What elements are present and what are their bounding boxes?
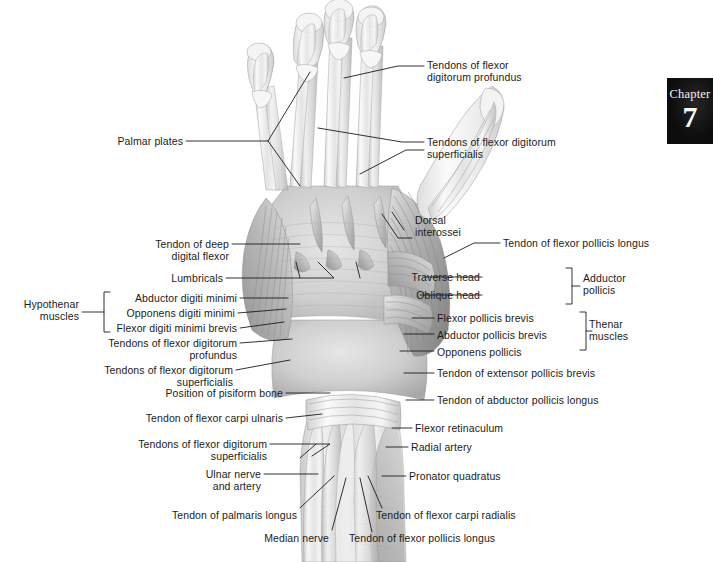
label-flexor-retinaculum: Flexor retinaculum: [415, 422, 503, 434]
label-abductor-pollicis-brevis: Abductor pollicis brevis: [437, 329, 547, 341]
label-thenar-muscles: Thenar muscles: [589, 318, 628, 343]
chapter-badge-sheen: [667, 78, 713, 144]
label-traverse-head: Traverse head: [396, 271, 480, 283]
label-adductor-pollicis: Adductor pollicis: [583, 272, 626, 297]
label-dorsal-interossei: Dorsal interossei: [415, 214, 461, 239]
label-hypothenar-muscles: Hypothenar muscles: [0, 298, 79, 323]
label-tendons-flexor-digitorum-superficialis-top: Tendons of flexor digitorum superficiali…: [427, 136, 556, 161]
label-tendon-of-flexor-pollicis-longus-upper: Tendon of flexor pollicis longus: [503, 237, 649, 249]
label-tendon-of-flexor-carpi-ulnaris: Tendon of flexor carpi ulnaris: [0, 412, 283, 424]
label-radial-artery: Radial artery: [411, 441, 472, 453]
label-position-of-pisiform-bone: Position of pisiform bone: [0, 387, 283, 399]
label-tendon-of-extensor-pollicis-brevis: Tendon of extensor pollicis brevis: [437, 367, 595, 379]
label-tendon-of-palmaris-longus: Tendon of palmaris longus: [80, 509, 297, 521]
label-tendon-of-flexor-carpi-radialis: Tendon of flexor carpi radialis: [376, 509, 516, 521]
label-tendon-of-abductor-pollicis-longus: Tendon of abductor pollicis longus: [437, 394, 599, 406]
label-opponens-digiti-minimi: Opponens digiti minimi: [108, 307, 235, 319]
label-tendon-of-flexor-pollicis-longus-bottom: Tendon of flexor pollicis longus: [349, 532, 495, 544]
chapter-badge: Chapter 7: [667, 78, 713, 144]
label-oblique-head: Oblique head: [396, 289, 480, 301]
label-tendons-flexor-digitorum-superficialis-wrist: Tendons of flexor digitorum superficiali…: [0, 438, 267, 463]
label-ulnar-nerve-and-artery: Ulnar nerve and artery: [0, 468, 261, 493]
label-palmar-plates: Palmar plates: [0, 135, 183, 147]
label-abductor-digiti-minimi: Abductor digiti minimi: [108, 292, 237, 304]
label-tendon-of-deep-digital-flexor: Tendon of deep digital flexor: [0, 238, 229, 263]
label-lumbricals: Lumbricals: [0, 272, 223, 284]
label-tendons-flexor-digitorum-superficialis-left: Tendons of flexor digitorum superficiali…: [0, 364, 233, 389]
label-pronator-quadratus: Pronator quadratus: [409, 470, 501, 482]
label-median-nerve: Median nerve: [210, 532, 329, 544]
label-tendons-flexor-digitorum-profundus-left: Tendons of flexor digitorum profundus: [0, 337, 237, 362]
label-tendons-flexor-digitorum-profundus-top: Tendons of flexor digitorum profundus: [427, 59, 522, 84]
label-flexor-digiti-minimi-brevis: Flexor digiti minimi brevis: [100, 322, 237, 334]
label-opponens-pollicis: Opponens pollicis: [437, 346, 522, 358]
figure-page: Tendons of flexor digitorum profundus Pa…: [0, 0, 713, 562]
label-flexor-pollicis-brevis: Flexor pollicis brevis: [437, 312, 534, 324]
